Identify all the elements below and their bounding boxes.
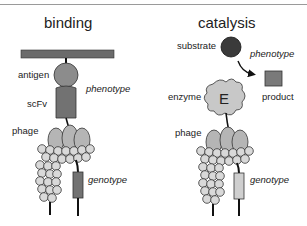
catalysis-phage	[197, 127, 254, 216]
substrate-shape	[221, 37, 241, 57]
binding-phage-label: phage	[12, 125, 38, 136]
enzyme-letter: E	[219, 90, 229, 107]
enzyme-label: enzyme	[168, 91, 201, 102]
binding-title: binding	[44, 14, 92, 31]
catalysis-title: catalysis	[198, 14, 256, 31]
binding-phenotype-label: phenotype	[85, 83, 130, 94]
reaction-arrow	[238, 61, 252, 74]
antigen-label: antigen	[18, 69, 49, 80]
catalysis-phenotype-label: phenotype	[249, 48, 294, 59]
scfv-shape	[56, 86, 76, 118]
catalysis-genotype-gene	[234, 173, 244, 199]
antigen-shape	[54, 63, 78, 87]
immobilized-surface	[21, 50, 114, 58]
catalysis-phage-label: phage	[175, 127, 201, 138]
catalysis-panel: catalysis substrate phenotype product en…	[168, 14, 294, 216]
dna-strand-right	[237, 163, 239, 173]
binding-genotype-gene	[73, 172, 83, 198]
catalysis-genotype-label: genotype	[250, 174, 289, 185]
substrate-label: substrate	[177, 40, 216, 51]
product-shape	[265, 71, 282, 86]
scfv-label: scFv	[27, 98, 47, 109]
binding-genotype-label: genotype	[88, 174, 127, 185]
product-label: product	[262, 91, 294, 102]
binding-panel: binding antigen scFv phenotype phage	[12, 14, 130, 216]
diagram-canvas: binding antigen scFv phenotype phage	[0, 0, 307, 226]
binding-phage	[36, 125, 95, 216]
